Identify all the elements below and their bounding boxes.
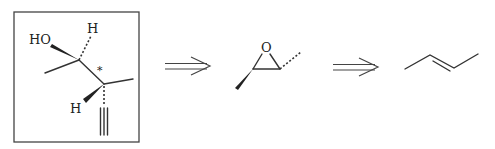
- epoxide-molecule: O: [235, 40, 301, 90]
- h-top-label: H: [87, 21, 98, 36]
- h-bottom-label: H: [70, 101, 81, 116]
- bond-o-c-left: [253, 54, 262, 69]
- stereo-marker: *: [97, 64, 103, 77]
- oxygen-label: O: [261, 40, 272, 55]
- dashed-bond-methyl-right: [280, 52, 301, 69]
- bond-o-c-right: [270, 54, 280, 69]
- double-bond-inner-line: [433, 61, 450, 71]
- retrosynthetic-arrow-1: [165, 57, 210, 75]
- bond-c1-methyl: [45, 60, 79, 73]
- retrosynthetic-arrow-2: [333, 58, 378, 76]
- wedge-bond-c2-h: [83, 84, 104, 103]
- alkyne-triple-bond: [101, 108, 108, 135]
- wedge-bond-methyl-left: [235, 69, 253, 90]
- alkene-molecule: [405, 54, 478, 71]
- wedge-bond-c1-oh: [50, 44, 79, 60]
- bond-c2-methyl: [104, 79, 133, 84]
- dashed-bond-c1-h: [79, 36, 91, 60]
- target-molecule: HO H * H: [14, 12, 139, 142]
- hydroxyl-label: HO: [29, 32, 51, 47]
- retrosynthesis-diagram: HO H * H O: [0, 0, 495, 149]
